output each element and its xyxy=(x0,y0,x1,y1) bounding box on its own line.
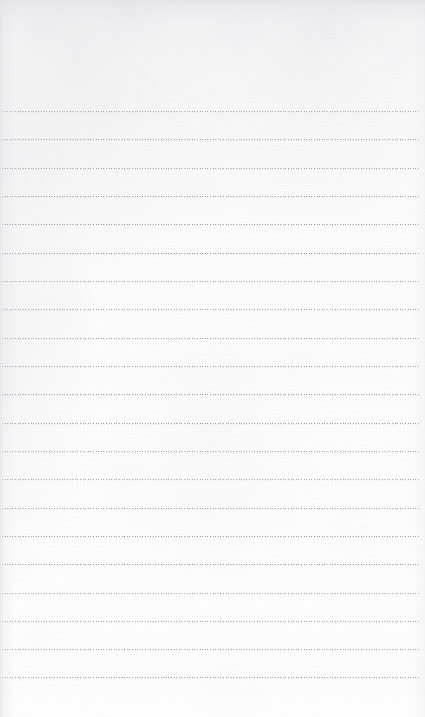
paper-sheet xyxy=(0,0,425,717)
writing-area[interactable] xyxy=(0,0,425,717)
